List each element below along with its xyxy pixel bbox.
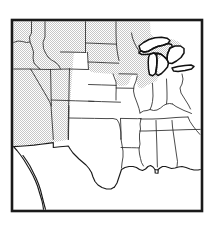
border-or-nv-ca: [14, 69, 51, 70]
border-in-oh: [167, 79, 168, 104]
border-nm-tx: [69, 106, 70, 140]
us-map-svg: [0, 0, 215, 226]
map-figure: [0, 0, 215, 226]
border-mt-wy: [61, 52, 86, 53]
border-id-ut-wy: [51, 69, 70, 70]
border-wy-co: [70, 69, 88, 70]
